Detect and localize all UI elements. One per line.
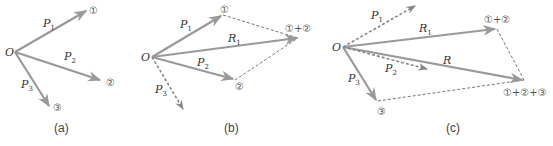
caption-c: (c)	[446, 121, 460, 135]
panel-b: O P1 R1 P2 P3 ① ①+② ② (b)	[141, 4, 311, 135]
panel-a: O P1 P2 P3 ① ② ③ (a)	[5, 5, 115, 135]
p1-label: P1	[370, 9, 383, 24]
vector-addition-diagram: O P1 P2 P3 ① ② ③ (a) O P1 R1 P2 P3 ① ①+②…	[0, 0, 553, 146]
p2-label: P2	[63, 50, 76, 65]
vector-r	[343, 47, 522, 80]
r1-label: R1	[227, 32, 241, 47]
p1-label: P1	[179, 18, 192, 33]
panel-c: O P1 R1 R P2 P3 ①+② ①+②+③ ③ (c)	[332, 6, 547, 135]
origin-label: O	[5, 46, 14, 59]
caption-a: (a)	[54, 121, 69, 135]
endpoint-1-label: ①	[220, 4, 229, 15]
endpoint-2-label: ②	[235, 81, 244, 92]
vector-p2	[15, 52, 100, 80]
parallelogram-side	[497, 29, 524, 80]
endpoint-1-plus-2-label: ①+②	[285, 23, 311, 34]
p3-label: P3	[20, 78, 33, 93]
endpoint-1-plus-2-label: ①+②	[484, 14, 510, 25]
r-label: R	[442, 54, 451, 67]
p1-label: P1	[42, 17, 55, 32]
vector-p2	[152, 57, 233, 79]
vector-r1	[152, 38, 297, 57]
p2-label: P2	[384, 62, 397, 77]
caption-b: (b)	[224, 121, 239, 135]
endpoint-1-label: ①	[89, 5, 98, 16]
endpoint-2-label: ②	[106, 77, 115, 88]
endpoint-3-label: ③	[377, 106, 386, 117]
endpoint-3-label: ③	[53, 102, 62, 113]
p3-label: P3	[154, 83, 167, 98]
p2-label: P2	[196, 56, 209, 71]
origin-label: O	[332, 41, 341, 54]
r1-label: R1	[418, 22, 432, 37]
endpoint-1-plus-2-plus-3-label: ①+②+③	[503, 87, 547, 98]
p3-label: P3	[347, 72, 360, 87]
origin-label: O	[141, 51, 150, 64]
